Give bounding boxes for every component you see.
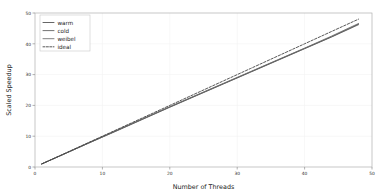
x-tick-label: 40 <box>302 171 308 176</box>
chart-figure: 01020304050 01020304050 Number of Thread… <box>0 0 386 193</box>
x-tick-label: 0 <box>34 171 37 176</box>
y-tick-label: 10 <box>25 134 31 139</box>
y-axis-title: Scaled Speedup <box>5 64 13 115</box>
x-tick-label: 30 <box>234 171 240 176</box>
y-tick-label: 20 <box>25 103 31 108</box>
y-tick-label: 40 <box>25 42 31 47</box>
legend-label-cold: cold <box>58 28 70 34</box>
x-tick-label: 20 <box>167 171 173 176</box>
chart-legend: warmcoldweibelideal <box>40 15 90 51</box>
x-tick-label: 10 <box>100 171 106 176</box>
x-axis-title: Number of Threads <box>173 183 235 191</box>
y-tick-label: 30 <box>25 72 31 77</box>
legend-label-weibel: weibel <box>58 36 77 42</box>
legend-label-ideal: ideal <box>58 44 72 50</box>
legend-label-warm: warm <box>58 20 74 26</box>
x-tick-label: 50 <box>369 171 375 176</box>
y-tick-label: 0 <box>28 165 31 170</box>
y-tick-label: 50 <box>25 11 31 16</box>
line-chart: 01020304050 01020304050 Number of Thread… <box>0 0 386 193</box>
